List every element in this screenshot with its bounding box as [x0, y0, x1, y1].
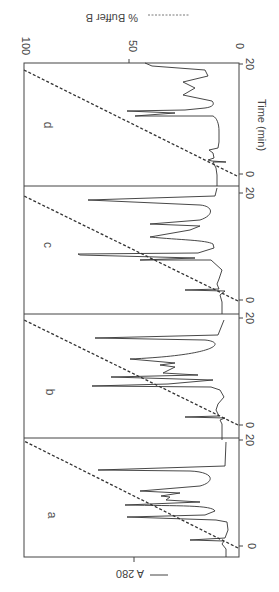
- panel-c-time-0: 0: [244, 297, 256, 303]
- a280-scale-bar: A 280: [116, 557, 168, 580]
- trace-b: [92, 320, 225, 440]
- panel-label-b: b: [43, 389, 57, 396]
- tick-50: 50: [127, 40, 139, 52]
- time-axis-title: Time (min): [256, 99, 268, 151]
- trace-c: [78, 188, 225, 314]
- chromatogram-figure: % Buffer B 100 50 0 20 0 20 0 20 0 20 0 …: [0, 0, 279, 592]
- buffer-b-ticks: 100 50 0: [20, 37, 246, 63]
- gradient-line-c: [24, 196, 238, 301]
- buffer-b-axis-title: % Buffer B: [86, 12, 190, 24]
- panel-b-time-0: 0: [244, 422, 256, 428]
- tick-0: 0: [234, 43, 246, 49]
- panel-d-time-0: 0: [244, 171, 256, 177]
- trace-a: [98, 442, 228, 557]
- tick-100: 100: [20, 37, 32, 55]
- panel-d-time-20: 20: [244, 58, 256, 70]
- panel-c-time-20: 20: [244, 187, 256, 199]
- panel-b-time-20: 20: [244, 312, 256, 324]
- panel-label-a: a: [45, 512, 59, 519]
- panel-a-time-20: 20: [244, 434, 256, 446]
- panel-a-time-0: 0: [246, 543, 258, 549]
- panel-label-c: c: [41, 242, 55, 248]
- time-axis: 20 0 20 0 20 0 20 0 Time (min): [239, 58, 268, 549]
- gradient-line-b: [24, 320, 238, 425]
- buffer-b-title-text: % Buffer B: [86, 12, 138, 24]
- trace-d: [127, 63, 226, 186]
- gradient-line-a: [24, 441, 238, 548]
- panel-label-d: d: [41, 122, 55, 129]
- a280-label: A 280: [116, 568, 144, 580]
